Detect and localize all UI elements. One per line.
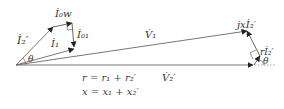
equation-x: x = x₁ + x₂′ xyxy=(82,86,139,97)
label-i0w: İ₀w xyxy=(54,8,72,19)
label-v1: V̇₁ xyxy=(145,29,156,40)
label-theta-left: θ xyxy=(28,54,34,64)
label-i1: İ₁ xyxy=(50,38,59,49)
right-angle-mark-right xyxy=(250,50,256,59)
jx-i2-prime-phasor xyxy=(247,31,260,56)
label-v2-prime: V̇₂′ xyxy=(162,72,176,83)
label-i01: İ₀₁ xyxy=(76,29,89,40)
phasor-diagram: İ₂′ İ₀w İ₀₁ İ₁ θ V̇₁ V̇₂′ jxİ₂′ rİ₂′ θ r… xyxy=(0,0,284,109)
equation-r: r = r₁ + r₂′ xyxy=(82,72,137,83)
r-i2-prime-phasor xyxy=(254,56,260,65)
i01-phasor xyxy=(72,23,74,47)
label-jx-i2-prime: jxİ₂′ xyxy=(235,19,257,30)
label-theta-right: θ xyxy=(263,56,269,66)
label-i2-prime: İ₂′ xyxy=(16,33,29,47)
i1-phasor xyxy=(16,49,74,65)
i0w-phasor xyxy=(53,23,72,27)
